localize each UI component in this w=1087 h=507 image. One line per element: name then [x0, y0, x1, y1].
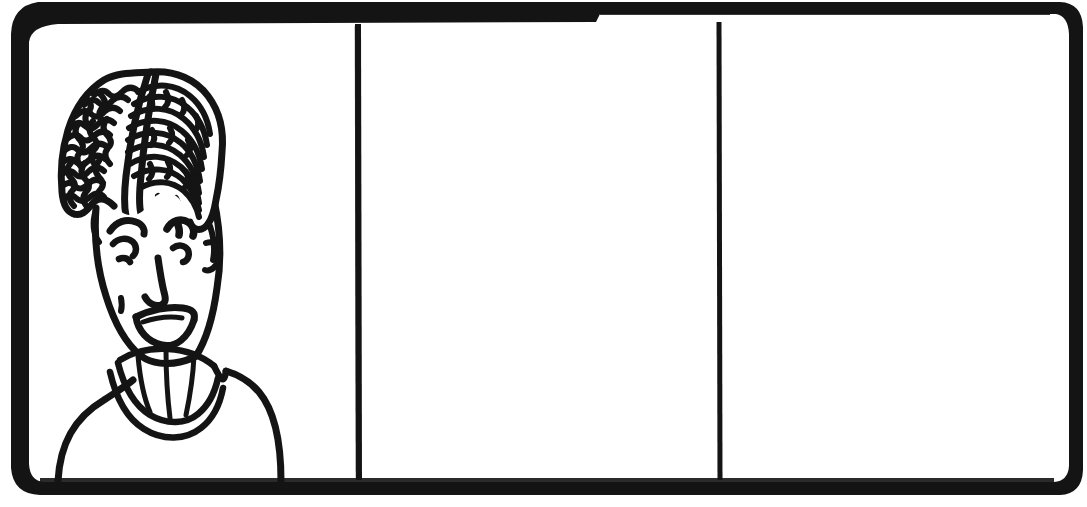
panel-1[interactable]: Panel 1	[18, 22, 354, 477]
panel-2[interactable]: Panel 2	[364, 22, 714, 477]
panel-1-label: Panel 1	[18, 22, 19, 23]
panel-divider-2	[719, 22, 720, 480]
panel-3-label: Panel 3	[726, 22, 727, 23]
panel-3[interactable]: Panel 3	[726, 22, 1056, 477]
comic-strip: Panel 1 Panel 2 Panel 3 Three-panel comi…	[0, 0, 1087, 507]
panel-2-label: Panel 2	[364, 22, 365, 23]
panel-divider-1	[356, 24, 359, 480]
